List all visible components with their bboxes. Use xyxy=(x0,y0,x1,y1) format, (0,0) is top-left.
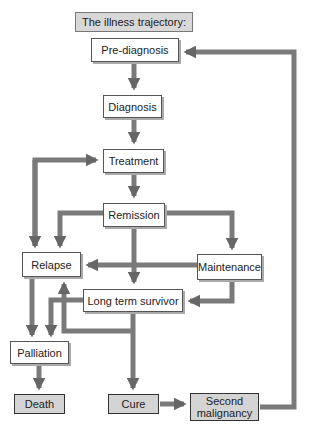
node-cure: Cure xyxy=(108,394,159,414)
node-treatment: Treatment xyxy=(103,149,164,173)
node-maintenance: Maintenance xyxy=(197,254,262,280)
arrow-second-malignancy-prediagnosis xyxy=(186,52,294,407)
arrow-relapse-treatment xyxy=(35,160,96,246)
diagram-title: The illness trajectory: xyxy=(75,12,193,32)
illness-trajectory-diagram: The illness trajectory: Pre-diagnosis Di… xyxy=(0,0,309,430)
node-remission: Remission xyxy=(103,203,165,227)
arrow-remission-maintenance xyxy=(165,213,232,248)
node-relapse: Relapse xyxy=(22,252,81,277)
arrow-remission-relapse xyxy=(60,213,103,246)
arrow-maintenance-lts xyxy=(190,281,232,301)
node-palliation: Palliation xyxy=(10,341,69,364)
node-death: Death xyxy=(14,394,65,414)
node-second-malignancy: Second malignancy xyxy=(190,393,259,421)
node-long-term-survivor: Long term survivor xyxy=(83,289,183,312)
node-prediagnosis: Pre-diagnosis xyxy=(91,38,179,62)
node-diagnosis: Diagnosis xyxy=(103,95,162,118)
